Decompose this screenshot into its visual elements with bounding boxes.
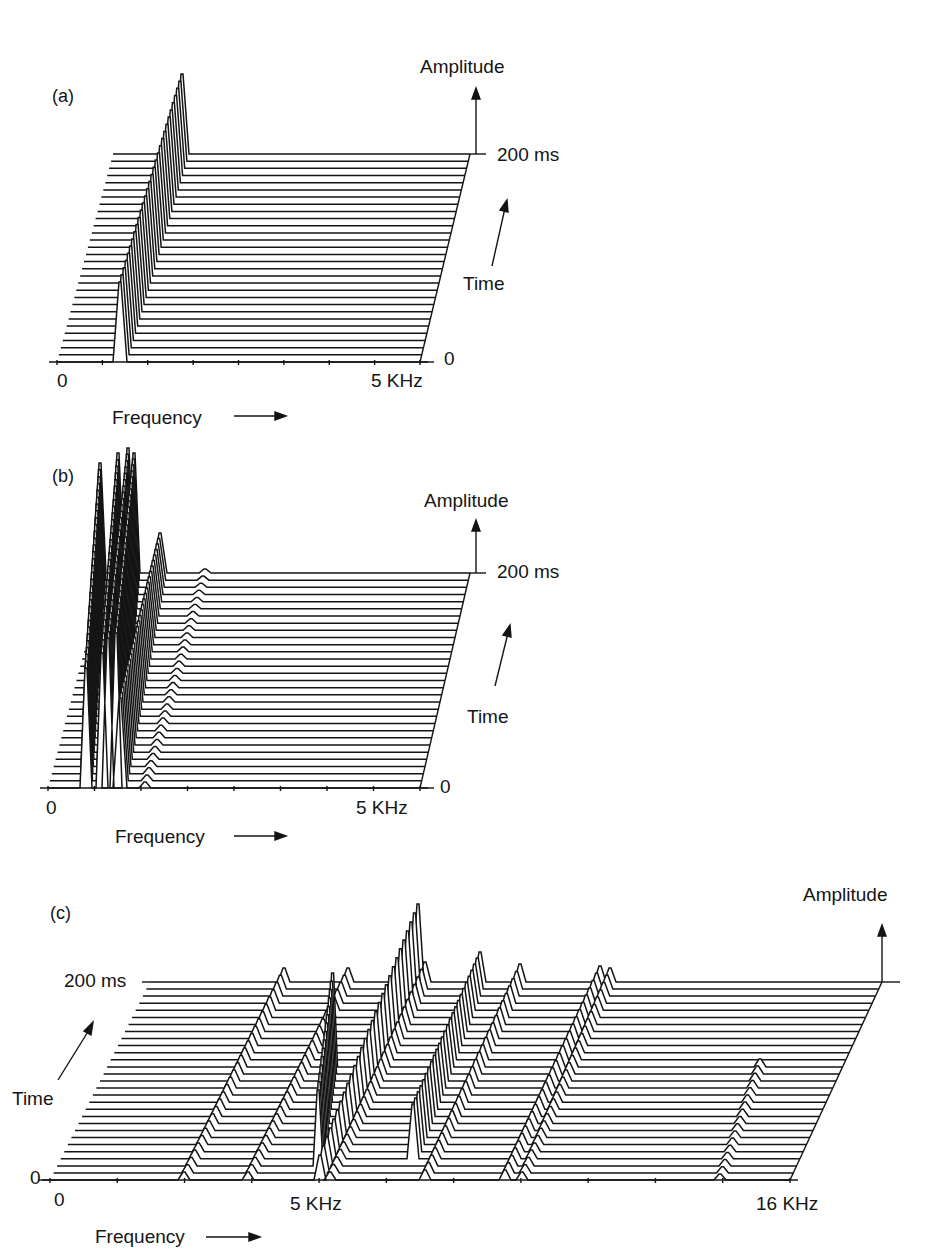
arrowhead-icon [275, 832, 286, 840]
x-max-label-b: 5 KHz [356, 797, 408, 819]
spectrum-slice [93, 461, 467, 588]
spectral-waterfall-figure [0, 0, 942, 1256]
arrowhead-icon [503, 625, 511, 637]
panel-a-waterfall [49, 74, 470, 365]
x-zero-label-c: 0 [54, 1189, 65, 1211]
panel-c-waterfall [42, 904, 882, 1183]
frequency-label-b: Frequency [115, 826, 205, 848]
amplitude-label-b: Amplitude [424, 490, 509, 512]
spectrum-slice [150, 904, 882, 982]
time-label-c: Time [12, 1088, 54, 1110]
arrowhead-icon [275, 412, 286, 420]
time-zero-label-b: 0 [440, 776, 451, 798]
arrowhead-icon [472, 88, 480, 99]
time-axis-arrow-c [58, 1030, 89, 1080]
spectrum-slice [118, 985, 853, 1046]
spectrum-slice [125, 967, 859, 1032]
spectrum-slice [94, 448, 470, 573]
arrowhead-icon [878, 925, 886, 936]
x-zero-label-a: 0 [57, 370, 68, 392]
x-max-label-a: 5 KHz [371, 370, 423, 392]
arrowhead-icon [472, 520, 480, 531]
arrowhead-icon [249, 1233, 260, 1241]
time-zero-label-c: 0 [30, 1167, 41, 1189]
panel-label-b: (b) [52, 466, 74, 487]
time-top-label-a: 200 ms [497, 144, 559, 166]
panel-label-a: (a) [52, 86, 74, 107]
time-axis-arrow-a [492, 208, 505, 266]
x-zero-label-b: 0 [46, 797, 57, 819]
spectrum-slice [121, 976, 855, 1039]
amplitude-label-c: Amplitude [803, 884, 888, 906]
frequency-label-c: Frequency [95, 1226, 185, 1248]
time-label-b: Time [467, 706, 509, 728]
arrowhead-icon [84, 1022, 93, 1035]
time-label-a: Time [463, 273, 505, 295]
time-top-label-c: 200 ms [64, 970, 126, 992]
panel-label-c: (c) [50, 903, 71, 924]
spectrum-slice [146, 913, 878, 989]
spectrum-slice [139, 931, 872, 1003]
time-zero-label-a: 0 [444, 348, 455, 370]
x-max-label-c: 16 KHz [756, 1193, 818, 1215]
arrowhead-icon [500, 200, 508, 212]
frequency-label-a: Frequency [112, 407, 202, 429]
spectrum-slice [94, 454, 469, 580]
spectrum-slice [136, 940, 869, 1010]
amplitude-label-a: Amplitude [420, 56, 505, 78]
panel-b-waterfall [40, 448, 470, 791]
x-mid-label-c: 5 KHz [290, 1193, 342, 1215]
time-axis-arrow-b [495, 633, 508, 686]
time-top-label-b: 200 ms [497, 561, 559, 583]
